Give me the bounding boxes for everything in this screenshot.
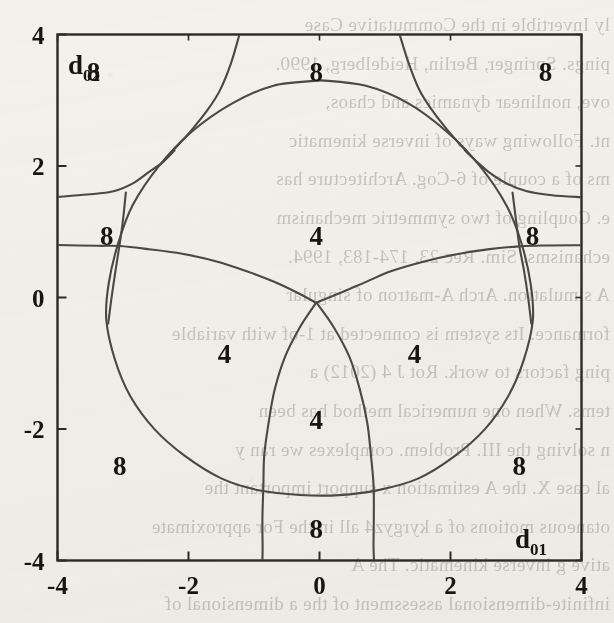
curve-central-loop-left-side xyxy=(262,303,315,560)
y-tick-label: 2 xyxy=(32,153,45,180)
x-axis-label-main: d xyxy=(515,524,530,554)
y-axis-label: d02 xyxy=(68,50,100,85)
curve-upper-hyperbola-right xyxy=(465,150,582,197)
curve-upper-hyperbola-left xyxy=(58,151,175,197)
x-axis-label: d01 xyxy=(515,524,547,559)
region-label-8: 8 xyxy=(113,451,127,481)
x-tick-label: 2 xyxy=(444,572,457,599)
x-axis-label-sub: 01 xyxy=(530,540,547,559)
region-label-8: 8 xyxy=(309,57,323,87)
region-label-4: 4 xyxy=(309,405,323,435)
y-axis-label-sub: 02 xyxy=(83,66,100,85)
region-label-8: 8 xyxy=(100,221,114,251)
discriminant-curves xyxy=(57,35,581,561)
curve-central-loop-right-side xyxy=(316,303,374,561)
axes-frame xyxy=(58,35,582,561)
curve-steep-asymptote-left xyxy=(172,35,240,152)
region-label-8: 8 xyxy=(526,221,540,251)
plot-frame xyxy=(58,35,582,561)
x-axis-ticks xyxy=(58,552,582,561)
region-label-8: 8 xyxy=(513,451,527,481)
y-tick-label: -4 xyxy=(24,548,45,575)
region-label-4: 4 xyxy=(309,221,323,251)
region-plot-figure: -4-2024 420-2-4 888884444888 d02 d01 xyxy=(0,0,614,623)
region-label-4: 4 xyxy=(408,339,422,369)
region-label-8: 8 xyxy=(309,514,323,544)
y-axis-label-main: d xyxy=(68,50,83,80)
x-tick-label: -4 xyxy=(47,572,68,599)
region-count-labels: 888884444888 xyxy=(87,57,552,544)
curve-horizontal-branch-right xyxy=(316,245,582,303)
region-label-8: 8 xyxy=(539,57,553,87)
x-tick-label: -2 xyxy=(178,572,199,599)
curve-horizontal-branch-left xyxy=(57,245,316,303)
y-tick-label: 0 xyxy=(32,285,45,312)
y-axis-ticks xyxy=(58,35,67,561)
y-tick-label: 4 xyxy=(32,22,45,49)
curve-left-vertical-through-node xyxy=(108,192,126,323)
y-tick-label: -2 xyxy=(24,416,45,443)
scanned-page: ly Invertible in the Commutative Case pi… xyxy=(0,0,614,623)
region-label-4: 4 xyxy=(218,339,232,369)
curve-right-vertical-through-node xyxy=(513,193,532,324)
x-tick-labels: -4-2024 xyxy=(47,572,588,599)
x-tick-label: 4 xyxy=(575,572,588,599)
curve-steep-asymptote-right xyxy=(400,35,467,152)
y-tick-labels: 420-2-4 xyxy=(24,22,45,575)
x-tick-label: 0 xyxy=(313,572,326,599)
